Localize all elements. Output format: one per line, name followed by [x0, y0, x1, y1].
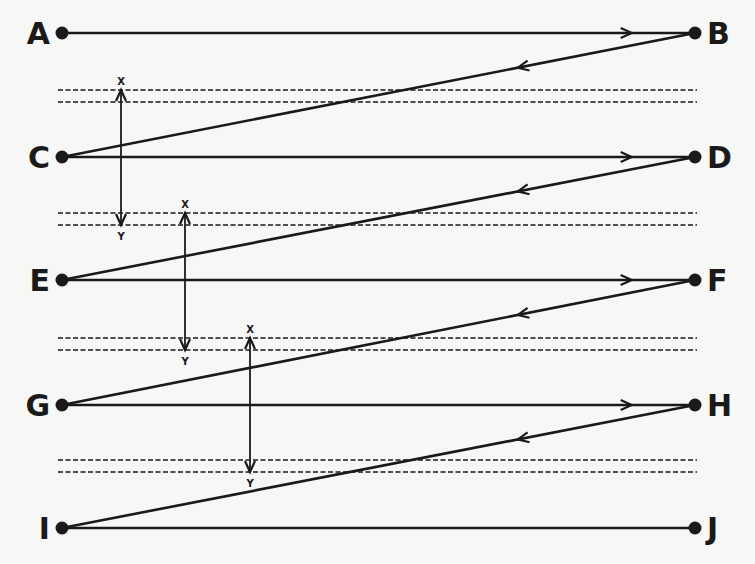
node-dot-icon: [689, 27, 702, 40]
span-arrow-3: XY: [245, 324, 255, 489]
node-label: E: [30, 263, 51, 298]
node-label: J: [705, 511, 718, 546]
node-label: A: [27, 16, 51, 51]
node-B: B: [689, 16, 730, 51]
span-top-label: X: [117, 76, 125, 87]
node-dot-icon: [56, 522, 69, 535]
node-dot-icon: [56, 399, 69, 412]
node-C: C: [28, 140, 69, 175]
span-arrow-1: XY: [116, 76, 126, 242]
span-bottom-label: Y: [245, 478, 254, 489]
return-line: [62, 280, 695, 405]
node-dot-icon: [56, 27, 69, 40]
span-top-label: X: [181, 199, 189, 210]
node-label: I: [39, 511, 50, 546]
edge-F-G: [62, 280, 695, 405]
node-dot-icon: [689, 399, 702, 412]
node-G: G: [25, 388, 68, 423]
node-dot-icon: [689, 522, 702, 535]
node-J: J: [689, 511, 719, 546]
node-dot-icon: [56, 151, 69, 164]
raster-scan-diagram: XYXYXY ABCDEFGHIJ: [0, 0, 755, 564]
node-E: E: [30, 263, 69, 298]
node-dot-icon: [689, 151, 702, 164]
span-bottom-label: Y: [180, 356, 189, 367]
node-label: G: [25, 388, 50, 423]
node-label: H: [707, 388, 732, 423]
edge-A-B: [62, 28, 695, 38]
node-label: F: [707, 263, 728, 298]
edge-G-H: [62, 400, 695, 410]
edge-H-I: [62, 405, 695, 528]
edge-E-F: [62, 275, 695, 285]
edge-D-E: [62, 157, 695, 280]
node-I: I: [39, 511, 69, 546]
return-line: [62, 405, 695, 528]
scan-lines: [62, 28, 695, 528]
edge-B-C: [62, 33, 695, 157]
node-label: D: [707, 140, 732, 175]
node-dot-icon: [689, 274, 702, 287]
x-y-span-arrows: XYXYXY: [116, 76, 255, 489]
span-top-label: X: [246, 324, 254, 335]
node-F: F: [689, 263, 728, 298]
node-label: C: [28, 140, 50, 175]
node-D: D: [689, 140, 732, 175]
return-line: [62, 33, 695, 157]
node-A: A: [27, 16, 69, 51]
edge-C-D: [62, 152, 695, 162]
node-label: B: [707, 16, 730, 51]
span-bottom-label: Y: [116, 231, 125, 242]
node-H: H: [689, 388, 733, 423]
return-line: [62, 157, 695, 280]
node-dot-icon: [56, 274, 69, 287]
